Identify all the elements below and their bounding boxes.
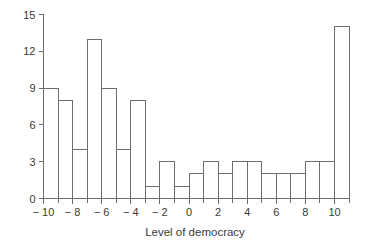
x-tick-label: 4 xyxy=(244,206,250,218)
x-tick-label: 2 xyxy=(215,206,221,218)
x-axis-title: Level of democracy xyxy=(145,226,245,238)
y-tick-label: 6 xyxy=(29,119,35,131)
y-tick-label: 0 xyxy=(29,193,35,205)
histogram-figure: 03691215 − 10− 8− 6− 4− 20246810 Level o… xyxy=(0,0,390,247)
x-tick-label: − 4 xyxy=(123,206,139,218)
x-tick-label: − 8 xyxy=(65,206,81,218)
x-tick-label: − 6 xyxy=(94,206,110,218)
y-tick-label: 12 xyxy=(23,45,35,57)
x-tick-label: 10 xyxy=(328,206,340,218)
x-tick-label: − 2 xyxy=(152,206,168,218)
x-tick-label: 8 xyxy=(302,206,308,218)
y-tick-label: 3 xyxy=(29,156,35,168)
histogram-outline xyxy=(44,27,350,199)
x-tick-label: − 10 xyxy=(33,206,55,218)
x-axis: − 10− 8− 6− 4− 20246810 xyxy=(33,199,349,218)
y-axis: 03691215 xyxy=(23,9,43,205)
y-tick-label: 15 xyxy=(23,9,35,21)
x-tick-label: 6 xyxy=(273,206,279,218)
y-tick-label: 9 xyxy=(29,82,35,94)
x-tick-label: 0 xyxy=(186,206,192,218)
histogram-bars xyxy=(44,27,350,199)
histogram-plot: 03691215 − 10− 8− 6− 4− 20246810 Level o… xyxy=(0,0,390,247)
